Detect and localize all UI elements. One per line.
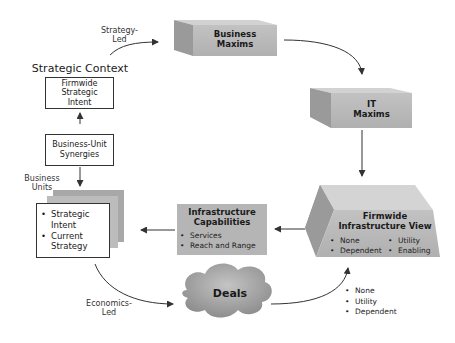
business-unit-item: Strategic Intent	[41, 209, 109, 230]
infra-capabilities-line2: Capabilities	[177, 218, 267, 228]
business-unit-line: Business-Unit	[52, 140, 106, 150]
strategy-led-line2: Led	[97, 35, 142, 44]
deal-outcome-item: None	[345, 286, 397, 297]
firmwide-strategic-intent-box: Firmwide Strategic Intent	[45, 77, 114, 109]
infra-view-item: None	[330, 236, 382, 246]
deal-outcome-item: Dependent	[345, 307, 397, 318]
deals-label: Deals	[195, 288, 265, 301]
strategic-context-title: Strategic Context	[25, 62, 135, 75]
business-units-line2: Units	[22, 183, 62, 192]
firmwide-infra-title-line2: Infrastructure View	[330, 222, 440, 232]
arrow-business-to-it-maxims	[284, 40, 362, 74]
economics-led-label: Economics- Led	[84, 299, 134, 317]
firmwide-infra-view-title: Firmwide Infrastructure View	[330, 212, 440, 232]
infra-view-item: Enabling	[388, 246, 431, 256]
intent-line: Intent	[61, 98, 97, 108]
business-units-line1: Business	[22, 174, 62, 183]
infra-capabilities-title: Infrastructure Capabilities	[177, 208, 267, 228]
deal-outcome-item: Utility	[345, 297, 397, 308]
strategy-led-line1: Strategy-	[97, 26, 142, 35]
capability-item: Reach and Range	[180, 241, 256, 251]
arrow-economics-led	[95, 264, 173, 304]
it-maxims-line2: Maxims	[331, 110, 412, 120]
economics-led-line2: Led	[84, 308, 134, 317]
strategic-line: Strategic	[61, 88, 97, 98]
it-maxims-label: IT Maxims	[331, 100, 412, 120]
firmwide-infra-items-left: None Dependent	[330, 236, 382, 256]
capability-item: Services	[180, 231, 256, 241]
business-unit-item: Current Strategy	[41, 231, 109, 252]
strategy-led-label: Strategy- Led	[97, 26, 142, 44]
business-units-label: Business Units	[22, 174, 62, 192]
deal-outcomes-list: None Utility Dependent	[345, 286, 397, 318]
business-maxims-line2: Maxims	[193, 40, 277, 50]
infra-capabilities-items: Services Reach and Range	[180, 231, 256, 251]
business-maxims-label: Business Maxims	[193, 30, 277, 50]
economics-led-line1: Economics-	[84, 299, 134, 308]
synergies-line: Synergies	[52, 150, 106, 160]
firmwide-line: Firmwide	[61, 79, 97, 89]
firmwide-infra-items-right: Utility Enabling	[388, 236, 431, 256]
infra-view-item: Utility	[388, 236, 431, 246]
infra-view-item: Dependent	[330, 246, 382, 256]
business-unit-synergies-box: Business-Unit Synergies	[45, 134, 114, 166]
arrow-deals-to-infra-view	[271, 268, 348, 304]
business-unit-front-page: Strategic Intent Current Strategy	[36, 203, 110, 258]
